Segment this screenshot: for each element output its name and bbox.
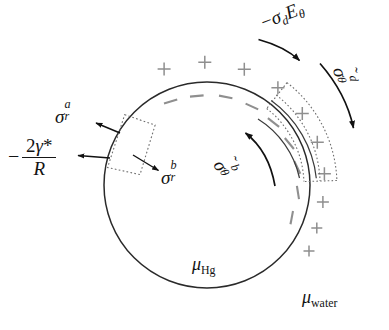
sub-sup-group: b r xyxy=(170,165,181,184)
control-volume-sector-outer xyxy=(267,83,337,182)
fraction: 2γ* R xyxy=(22,136,56,179)
label-sigma-r-b: σ b r xyxy=(161,165,181,187)
arrow-electric-traction xyxy=(259,40,300,61)
fraction-numerator: 2γ* xyxy=(24,136,55,157)
label-sigma-theta-d: ˜σ d θ xyxy=(330,66,355,89)
subscript-r: r xyxy=(170,171,175,183)
minus-sign: − xyxy=(8,146,19,166)
mu-glyph: μ xyxy=(192,254,201,274)
mu-glyph: μ xyxy=(302,287,311,307)
label-mu-hg: μHg xyxy=(192,255,216,276)
control-volume-rectangle xyxy=(108,115,156,175)
subscript-r: r xyxy=(64,110,69,122)
sigma-glyph: σ xyxy=(55,106,64,127)
sigma-glyph: σ xyxy=(161,167,170,188)
figure-canvas: −σdEθ ˜σ d θ ˜σ b θ σ a r σ b r − 2γ* R xyxy=(0,0,389,330)
sub-sup-group: a r xyxy=(64,104,75,123)
fraction-denominator: R xyxy=(31,158,47,179)
label-laplace-pressure: − 2γ* R xyxy=(8,136,56,179)
label-mu-water: μwater xyxy=(302,288,337,309)
arrow-laplace-pressure xyxy=(78,156,110,159)
arrow-sigma-theta-b xyxy=(246,133,276,186)
double-layer-outer-arc xyxy=(271,101,316,179)
arrow-sigma-r-a xyxy=(96,123,120,133)
label-sigma-r-a: σ a r xyxy=(55,104,75,126)
star-glyph: * xyxy=(43,135,53,156)
superscript-d: d xyxy=(348,75,361,83)
charge-layer-positive xyxy=(158,56,331,257)
subscript-water: water xyxy=(311,296,337,310)
subscript-Hg: Hg xyxy=(201,263,216,277)
gamma-glyph: γ xyxy=(36,135,44,156)
numerator-two: 2 xyxy=(26,135,36,156)
diagram-svg xyxy=(0,0,389,330)
